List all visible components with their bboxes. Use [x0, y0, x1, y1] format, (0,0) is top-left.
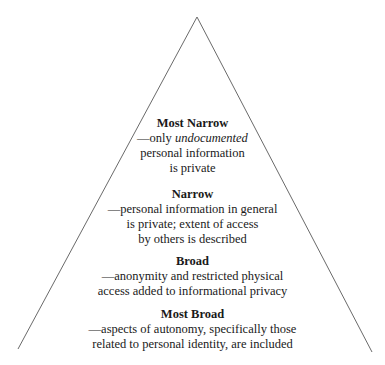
level-title: Broad	[0, 254, 385, 269]
level-description-line: access added to informational privacy	[0, 284, 385, 299]
level-description-line: —aspects of autonomy, specifically those	[0, 322, 385, 337]
level-description-line: is private; extent of access	[0, 217, 385, 232]
level-title: Narrow	[0, 187, 385, 202]
level-description-line: —personal information in general	[0, 202, 385, 217]
level-most-narrow: Most Narrow —only undocumented personal …	[0, 116, 385, 176]
pyramid-right-edge	[197, 17, 372, 352]
level-title: Most Narrow	[0, 116, 385, 131]
level-description-line: —only undocumented	[0, 131, 385, 146]
level-most-broad: Most Broad —aspects of autonomy, specifi…	[0, 307, 385, 352]
level-description-line: related to personal identity, are includ…	[0, 337, 385, 352]
level-description-line: —anonymity and restricted physical	[0, 269, 385, 284]
level-description-line: by others is described	[0, 232, 385, 247]
level-description-line: is private	[0, 161, 385, 176]
pyramid-left-edge	[18, 17, 197, 349]
level-title: Most Broad	[0, 307, 385, 322]
emphasis-text: undocumented	[175, 131, 248, 145]
level-broad: Broad —anonymity and restricted physical…	[0, 254, 385, 299]
level-narrow: Narrow —personal information in general …	[0, 187, 385, 247]
level-description-line: personal information	[0, 146, 385, 161]
